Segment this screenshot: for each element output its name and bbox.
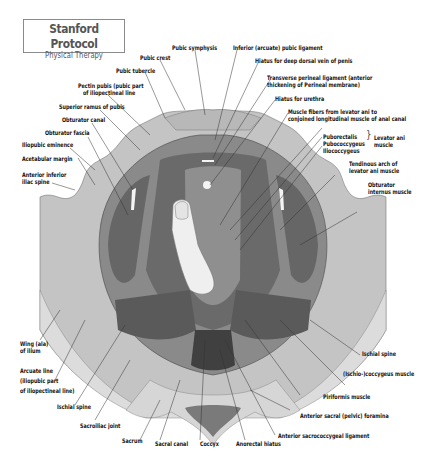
label-superior-ramus: Superior ramus of pubis [59, 103, 125, 110]
label-anterior-sacral-foramina: Anterior sacral (pelvic) foramina [300, 412, 389, 419]
label-sacroiliac-joint: Sacroiliac joint [80, 422, 120, 429]
label-pecten-pubis-2: of iliopectineal line [83, 89, 135, 96]
label-anterior-sacrococcygeal: Anterior sacrococcygeal ligament [278, 432, 369, 439]
label-arcuate-line-1: Arcuate line [20, 367, 53, 374]
label-sacrum: Sacrum [122, 437, 142, 444]
label-coccyx: Coccyx [200, 440, 219, 447]
label-pubic-tubercle: Pubic tubercle [116, 67, 155, 74]
label-obturator-canal: Obturator canal [62, 116, 105, 123]
label-wing-ilium-2: of ilium [20, 347, 41, 354]
label-levator-ani-2: muscle [374, 141, 393, 148]
label-arcuate-line-2: (iliopubic part [20, 377, 58, 384]
label-iliopubic-eminence: Iliopubic eminence [22, 141, 73, 148]
label-ischial-spine-left: Ischial spine [57, 403, 91, 410]
label-pubic-symphysis: Pubic symphysis [172, 44, 217, 51]
label-arcuate-line-3: of iliopectineal line) [20, 387, 74, 394]
label-ischial-spine-right: Ischial spine [362, 350, 396, 357]
label-inferior-pubic-ligament: Inferior (arcuate) pubic ligament [233, 44, 322, 51]
label-obturator-fascia: Obturator fascia [45, 129, 90, 136]
label-anorectal-hiatus: Anorectal hiatus [236, 440, 281, 447]
label-hiatus-dorsal-vein: Hiatus for deep dorsal vein of penis [255, 57, 352, 64]
label-obturator-internus-2: internus muscle [368, 188, 412, 195]
label-piriformis: Piriformis muscle [323, 393, 370, 400]
fingernail [175, 202, 188, 220]
label-iliococcygeus: Iliococcygeus [323, 147, 360, 154]
brace-icon: } [366, 131, 371, 138]
label-pubic-crest: Pubic crest [140, 54, 170, 61]
anorectal-region [191, 330, 235, 370]
label-acetabular-margin: Acetabular margin [22, 155, 73, 162]
label-hiatus-urethra: Hiatus for urethra [275, 95, 324, 102]
label-muscle-fibers-2: conjoined longitudinal muscle of anal ca… [288, 115, 406, 122]
label-transverse-perineal-2: thickening of Perineal membrane) [267, 81, 360, 88]
label-sacral-canal: Sacral canal [155, 440, 188, 447]
dorsal-vein-hiatus [202, 160, 214, 162]
label-ischiococcygeus: (Ischio-)coccygeus muscle [343, 370, 414, 377]
label-tendinous-arch-2: levator ani muscle [349, 167, 399, 174]
urethra-hiatus [203, 181, 211, 189]
label-anterior-inferior-iliac-2: iliac spine [22, 178, 49, 185]
